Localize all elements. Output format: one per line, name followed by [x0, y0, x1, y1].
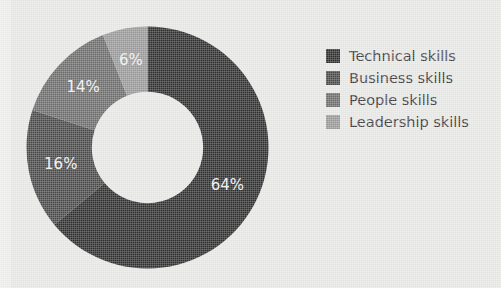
chart-canvas: 64%16%14%6% Technical skillsBusiness ski… [0, 0, 501, 288]
legend-item[interactable]: Leadership skills [326, 111, 494, 133]
chart-legend: Technical skillsBusiness skillsPeople sk… [326, 45, 494, 133]
legend-item[interactable]: Business skills [326, 67, 494, 89]
legend-color-swatch [326, 115, 340, 129]
left-margin-strip [0, 0, 11, 288]
legend-item-label: People skills [349, 93, 437, 108]
donut-chart: 64%16%14%6% [26, 26, 269, 269]
legend-color-swatch [326, 71, 340, 85]
legend-item-label: Business skills [349, 71, 453, 86]
donut-chart-svg: 64%16%14%6% [26, 26, 269, 269]
donut-slices [27, 27, 269, 269]
slice-value-label: 16% [44, 155, 77, 173]
slice-value-label: 64% [211, 176, 244, 194]
slice-value-label: 6% [119, 51, 143, 69]
slice-value-label: 14% [66, 78, 99, 96]
legend-color-swatch [326, 93, 340, 107]
legend-item-label: Technical skills [349, 49, 456, 64]
legend-item[interactable]: Technical skills [326, 45, 494, 67]
legend-item[interactable]: People skills [326, 89, 494, 111]
legend-item-label: Leadership skills [349, 115, 469, 130]
legend-color-swatch [326, 49, 340, 63]
